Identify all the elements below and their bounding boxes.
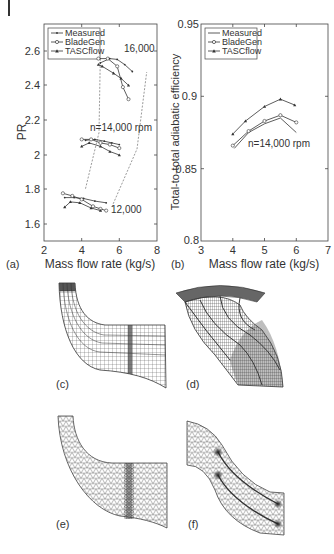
series-tascflow (233, 99, 295, 134)
chart-b-ytick: 0.9 (182, 90, 197, 102)
series-tascflow-12000 (65, 202, 101, 211)
mesh-c-meridional-structured: (c) (56, 283, 166, 390)
chart-b-xtick: 3 (198, 244, 204, 256)
mesh-d-blade-to-blade-structured: (d) (176, 283, 283, 390)
chart-a-ytick: 2 (34, 149, 40, 161)
chart-b-y-axis-label: Total-to-total adiabatic efficiency (169, 53, 181, 210)
panel-label-a: (a) (6, 258, 19, 270)
legend-tascflow: TASCflow (65, 46, 105, 56)
chart-b-xtick: 5 (261, 244, 267, 256)
figure-canvas: 2.6 2.4 2.2 2 1.8 1.6 2 4 6 8 Mass flow … (0, 0, 334, 554)
chart-a-ytick: 2.4 (25, 79, 40, 91)
chart-b-xtick: 7 (325, 244, 331, 256)
panel-label-c: (c) (56, 378, 69, 390)
chart-a-xtick: 8 (154, 244, 160, 256)
legend-tascflow: TASCflow (222, 46, 262, 56)
chart-b-legend: Measured BladeGen TASCflow (205, 28, 262, 59)
chart-b-xtick: 4 (230, 244, 236, 256)
chart-a-x-axis-label: Mass flow rate (kg/s) (45, 257, 156, 271)
chart-a-ytick: 1.8 (25, 183, 40, 195)
chart-a-ytick: 1.6 (25, 218, 40, 230)
chart-b-x-axis-label: Mass flow rate (kg/s) (209, 257, 320, 271)
chart-a-xtick: 2 (41, 244, 47, 256)
chart-a-series-16000 (98, 59, 132, 100)
annotation-14000: n=14,000 rpm (90, 122, 152, 133)
chart-a-xtick: 4 (79, 244, 85, 256)
panel-label-e: (e) (56, 518, 69, 530)
chart-a-legend: Measured BladeGen TASCflow (48, 28, 105, 59)
chart-a-ytick: 2.6 (25, 45, 40, 57)
annotation-12000: 12,000 (111, 204, 142, 215)
mesh-f-blade-to-blade-unstructured: (f) (187, 421, 284, 535)
chart-b-ytick: 0.8 (184, 234, 199, 246)
panel-label-d: (d) (186, 378, 199, 390)
chart-a-pressure-ratio: 2.6 2.4 2.2 2 1.8 1.6 2 4 6 8 Mass flow … (6, 24, 160, 271)
panel-label-f: (f) (188, 518, 198, 530)
annotation-16000: 16,000 (124, 43, 155, 54)
chart-b-ytick: 0.95 (178, 18, 199, 30)
series-tascflow-16000 (98, 65, 128, 86)
mesh-e-meridional-unstructured: (e) (56, 416, 167, 530)
panel-label-b: (b) (171, 258, 184, 270)
chart-a-y-axis-label: PR (15, 123, 29, 140)
chart-a-xtick: 6 (116, 244, 122, 256)
annotation-14000: n=14,000 rpm (248, 138, 310, 149)
chart-b-efficiency: 0.95 0.9 0.85 0.8 3 4 5 6 7 Mass flow ra… (169, 18, 331, 271)
chart-b-xtick: 6 (293, 244, 299, 256)
